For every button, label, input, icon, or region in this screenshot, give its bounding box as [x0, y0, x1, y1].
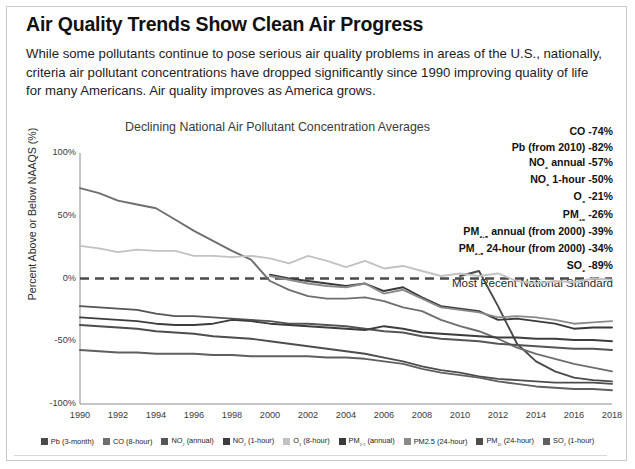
x-axis-tick-label: 2008: [402, 410, 442, 420]
x-axis-tick-label: 1994: [136, 410, 176, 420]
legend-swatch: [339, 438, 346, 445]
legend-label: NO₂ (1-hour): [233, 436, 275, 446]
legend-item[interactable]: NO₂ (annual): [161, 436, 213, 446]
legend-item[interactable]: PM2.5 (24-hour): [404, 437, 468, 446]
y-axis-tick-label: -100%: [28, 398, 76, 408]
x-axis-tick-label: 1992: [98, 410, 138, 420]
legend-label: O₃ (8-hour): [293, 436, 329, 446]
legend-item[interactable]: CO (8-hour): [103, 437, 152, 446]
y-axis-tick-label: 50%: [28, 210, 76, 220]
legend-label: CO (8-hour): [113, 437, 152, 446]
series-line: [80, 188, 612, 371]
x-axis-tick-label: 2002: [288, 410, 328, 420]
x-axis-tick-label: 2000: [250, 410, 290, 420]
legend-swatch: [283, 438, 290, 445]
series-line: [460, 271, 612, 381]
y-axis-tick-label: 100%: [28, 147, 76, 157]
legend-label: PM2.5 (24-hour): [414, 437, 468, 446]
x-axis-tick-label: 2016: [554, 410, 594, 420]
x-axis-tick-label: 2014: [516, 410, 556, 420]
chart-svg: [0, 0, 635, 469]
legend-label: SO₂ (1-hour): [553, 436, 594, 446]
x-axis-tick-label: 2006: [364, 410, 404, 420]
legend-swatch: [404, 438, 411, 445]
legend-separator: [14, 455, 607, 456]
legend-swatch: [543, 438, 550, 445]
legend-item[interactable]: SO₂ (1-hour): [543, 436, 594, 446]
legend-swatch: [103, 438, 110, 445]
legend-label: Pb (3-month): [51, 437, 94, 446]
legend-item[interactable]: PM₂.₅ (annual): [339, 436, 395, 446]
legend-swatch: [223, 438, 230, 445]
x-axis-tick-label: 2012: [478, 410, 518, 420]
x-axis-tick-label: 2010: [440, 410, 480, 420]
y-axis-tick-label: -50%: [28, 335, 76, 345]
x-axis-tick-label: 1990: [60, 410, 100, 420]
legend-swatch: [41, 438, 48, 445]
legend-swatch: [476, 438, 483, 445]
legend-item[interactable]: O₃ (8-hour): [283, 436, 329, 446]
legend-item[interactable]: NO₂ (1-hour): [223, 436, 275, 446]
x-axis-tick-label: 1996: [174, 410, 214, 420]
y-axis-tick-label: 0%: [28, 273, 76, 283]
chart-legend: Pb (3-month)CO (8-hour)NO₂ (annual)NO₂ (…: [0, 436, 635, 446]
legend-label: PM₁₀ (24-hour): [486, 436, 534, 446]
legend-swatch: [161, 438, 168, 445]
chart-plot-area: Percent Above or Below NAAQS (%) 100%50%…: [0, 0, 635, 469]
legend-item[interactable]: PM₁₀ (24-hour): [476, 436, 534, 446]
legend-label: NO₂ (annual): [171, 436, 213, 446]
series-line: [80, 350, 612, 390]
legend-label: PM₂.₅ (annual): [349, 436, 395, 446]
x-axis-tick-label: 2004: [326, 410, 366, 420]
legend-item[interactable]: Pb (3-month): [41, 437, 94, 446]
x-axis-tick-label: 2018: [592, 410, 632, 420]
x-axis-tick-label: 1998: [212, 410, 252, 420]
